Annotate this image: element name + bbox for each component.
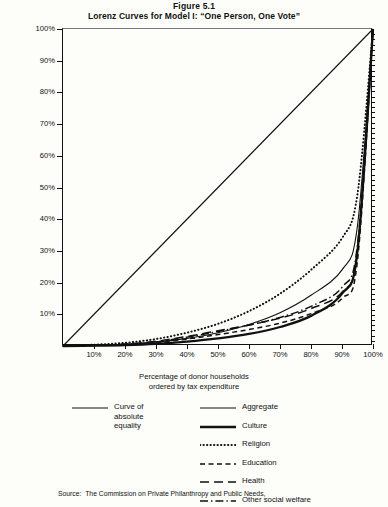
right-axis-tick	[371, 336, 375, 337]
right-axis-tick	[371, 284, 375, 285]
right-axis-tick	[371, 154, 375, 155]
x-axis-tick	[125, 344, 126, 349]
right-axis-tick	[371, 263, 375, 264]
right-axis-tick	[371, 221, 375, 222]
y-axis-tick	[57, 283, 63, 284]
right-axis-tick	[371, 232, 375, 233]
legend-item-health[interactable]: Health	[200, 476, 311, 487]
figure-lorenz-curves: Figure 5.1 Lorenz Curves for Model I: “O…	[0, 0, 388, 507]
x-axis-tick-label: 100%	[363, 351, 382, 359]
figure-title-block: Figure 5.1 Lorenz Curves for Model I: “O…	[0, 1, 388, 22]
right-axis-tick	[371, 76, 375, 77]
right-axis-tick	[371, 247, 375, 248]
right-axis-tick	[371, 242, 375, 243]
y-axis-tick	[57, 251, 63, 252]
curve-curve-of-absolute-equality	[63, 29, 373, 346]
x-axis-tick-label: 40%	[179, 351, 194, 359]
y-axis-tick-label: 30%	[40, 247, 55, 255]
right-axis-tick	[371, 39, 375, 40]
legend-label-line: Aggregate	[242, 402, 278, 412]
y-axis-tick	[57, 61, 63, 62]
y-axis-tick-label: 70%	[40, 120, 55, 128]
y-axis-tick	[57, 124, 63, 125]
y-axis-tick-label: 10%	[40, 310, 55, 318]
legend-label-line: Culture	[242, 421, 267, 431]
axis-title-line: Percentage of donor households	[0, 372, 388, 382]
right-axis-tick	[371, 180, 375, 181]
y-axis-tick-label: 40%	[40, 215, 55, 223]
y-axis-tick	[57, 92, 63, 93]
right-axis-tick	[371, 278, 375, 279]
source-label: Source:	[58, 490, 81, 497]
legend-item-label: Religion	[242, 439, 270, 449]
x-axis-tick-label: 80%	[303, 351, 318, 359]
x-axis-tick	[156, 344, 157, 349]
right-axis-tick	[371, 258, 375, 259]
source-note: Source: The Commission on Private Philan…	[58, 489, 388, 498]
x-axis-tick-label: 60%	[241, 351, 256, 359]
right-axis-tick	[371, 289, 375, 290]
y-axis-tick-label: 90%	[40, 57, 55, 65]
right-axis-tick	[371, 268, 375, 269]
y-axis-tick	[57, 314, 63, 315]
right-axis-tick	[371, 341, 375, 342]
y-axis-tick-label: 50%	[40, 184, 55, 192]
y-axis-tick-label: 80%	[40, 88, 55, 96]
legend-item-aggregate[interactable]: Aggregate	[200, 402, 311, 413]
right-axis-tick	[371, 45, 375, 46]
x-axis-tick	[218, 344, 219, 349]
source-text: The Commission on Private Philanthropy a…	[85, 490, 265, 497]
right-axis-tick	[371, 310, 375, 311]
right-axis-tick	[371, 206, 375, 207]
x-axis-tick-label: 90%	[334, 351, 349, 359]
right-axis-tick	[371, 175, 375, 176]
right-axis-tick	[371, 273, 375, 274]
right-axis-tick	[371, 117, 375, 118]
x-axis-tick	[311, 344, 312, 349]
right-axis-tick	[371, 71, 375, 72]
right-axis-tick	[371, 143, 375, 144]
legend: Curve ofabsoluteequality AggregateCultur…	[0, 400, 388, 490]
right-axis-tick	[371, 123, 375, 124]
right-axis-tick	[371, 226, 375, 227]
right-axis-tick	[371, 164, 375, 165]
legend-item-education[interactable]: Education	[200, 458, 311, 469]
legend-line-icon	[72, 403, 108, 413]
y-axis-tick	[57, 156, 63, 157]
right-axis-tick	[371, 195, 375, 196]
legend-item-culture[interactable]: Culture	[200, 421, 311, 432]
right-axis-tick	[371, 320, 375, 321]
x-axis-tick	[280, 344, 281, 349]
y-axis-tick-label: 20%	[40, 279, 55, 287]
x-axis-tick-label: 50%	[210, 351, 225, 359]
legend-line-icon	[200, 459, 236, 469]
y-axis-tick	[57, 219, 63, 220]
legend-line-icon	[200, 403, 236, 413]
right-axis-tick	[371, 133, 375, 134]
x-axis-tick	[249, 344, 250, 349]
right-axis-tick	[371, 159, 375, 160]
y-axis-tick-label: 100%	[36, 25, 55, 33]
right-axis-tick	[371, 128, 375, 129]
x-axis-tick	[94, 344, 95, 349]
right-axis-tick	[371, 97, 375, 98]
right-axis-tick	[371, 102, 375, 103]
y-axis-tick	[57, 29, 63, 30]
right-axis-tick	[371, 304, 375, 305]
right-axis-tick	[371, 112, 375, 113]
legend-item-label: Education	[242, 458, 277, 468]
right-axis-tick	[371, 294, 375, 295]
right-axis-tick	[371, 330, 375, 331]
legend-item-label: Health	[242, 476, 265, 486]
x-axis-tick-label: 30%	[148, 351, 163, 359]
right-axis-tick	[371, 200, 375, 201]
right-axis-tick	[371, 216, 375, 217]
axis-title-line: ordered by tax expenditure	[0, 382, 388, 392]
right-axis-tick	[371, 185, 375, 186]
legend-item-religion[interactable]: Religion	[200, 439, 311, 450]
right-axis-tick	[371, 190, 375, 191]
figure-title: Lorenz Curves for Model I: “One Person, …	[0, 11, 388, 22]
x-axis-tick-label: 10%	[86, 351, 101, 359]
right-axis-tick	[371, 81, 375, 82]
legend-item-equality[interactable]: Curve ofabsoluteequality	[72, 402, 143, 431]
